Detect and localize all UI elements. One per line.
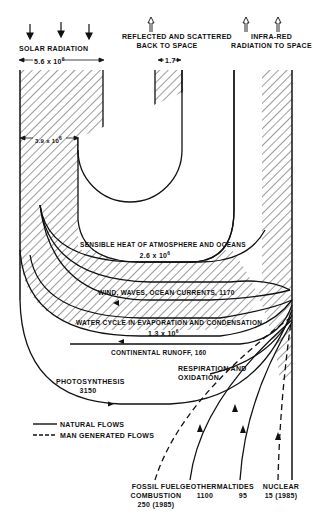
source-nuclear-label: NUCLEAR 15 (1985) — [258, 482, 304, 500]
solar-arrows — [27, 22, 92, 39]
outgoing-arrows — [148, 17, 281, 32]
runoff-label: CONTINENTAL RUNOFF, 160 — [111, 348, 207, 357]
source-fossil-label: FOSSIL FUEL COMBUSTION 250 (1985) — [130, 482, 182, 509]
respiration-label: RESPIRATION AND OXIDATION — [178, 364, 247, 382]
legend-natural-label: NATURAL FLOWS — [60, 420, 124, 429]
wind-label: WIND, WAVES, OCEAN CURRENTS, 1170 — [98, 288, 235, 297]
photosynthesis-label: PHOTOSYNTHESIS 3150 — [56, 377, 120, 395]
source-geothermal-label: GEOTHERMAL 1100 — [180, 482, 230, 500]
absorbed-value-label: 3.9 x 106 — [35, 134, 62, 146]
water-cycle-label: WATER CYCLE IN EVAPORATION AND CONDENSAT… — [76, 318, 251, 338]
man-generated-flow-curves — [155, 318, 291, 480]
reflected-label: REFLECTED AND SCATTERED BACK TO SPACE — [122, 32, 212, 50]
source-tides-label: TIDES 95 — [228, 482, 258, 500]
legend-man-label: MAN GENERATED FLOWS — [60, 431, 154, 440]
infrared-label: INFRA-RED RADIATION TO SPACE — [230, 32, 313, 50]
reflected-value-label: 1.7 — [165, 56, 176, 65]
sensible-heat-label: SENSIBLE HEAT OF ATMOSPHERE AND OCEANS 2… — [80, 240, 230, 260]
solar-value-label: 5.6 x 106 — [34, 55, 65, 66]
solar-radiation-label: SOLAR RADIATION — [19, 44, 88, 53]
